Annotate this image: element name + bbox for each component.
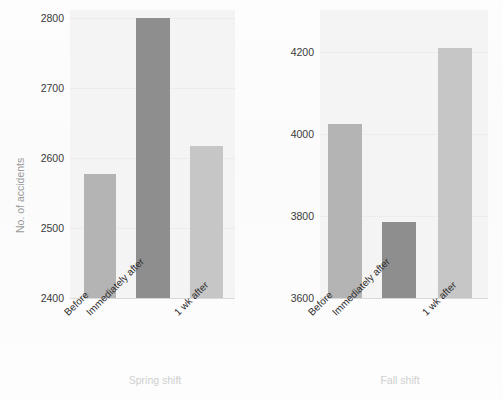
ytick-3600: 3600 bbox=[270, 292, 314, 304]
panel-spring-shift: No. of accidents 2800 2700 2600 2500 240… bbox=[0, 0, 252, 401]
panel-title-spring: Spring shift bbox=[95, 374, 215, 386]
ytick-2800: 2800 bbox=[20, 12, 64, 24]
ytick-2600: 2600 bbox=[20, 152, 64, 164]
ytick-2700: 2700 bbox=[20, 82, 64, 94]
ytick-2500: 2500 bbox=[20, 222, 64, 234]
panel-title-fall: Fall shift bbox=[340, 374, 460, 386]
bar-fall-1-wk-after bbox=[438, 48, 472, 298]
ytick-3800: 3800 bbox=[270, 210, 314, 222]
bar-spring-immediately-after bbox=[136, 18, 170, 298]
ytick-4200: 4200 bbox=[270, 46, 314, 58]
figure-root: No. of accidents 2800 2700 2600 2500 240… bbox=[0, 0, 503, 401]
panel-fall-shift: 4200 4000 3800 3600 Before Immediately a… bbox=[252, 0, 503, 401]
ytick-4000: 4000 bbox=[270, 128, 314, 140]
ytick-2400: 2400 bbox=[20, 292, 64, 304]
bar-spring-before bbox=[84, 174, 116, 298]
bar-fall-before bbox=[328, 124, 362, 298]
bar-spring-1-wk-after bbox=[190, 146, 223, 298]
